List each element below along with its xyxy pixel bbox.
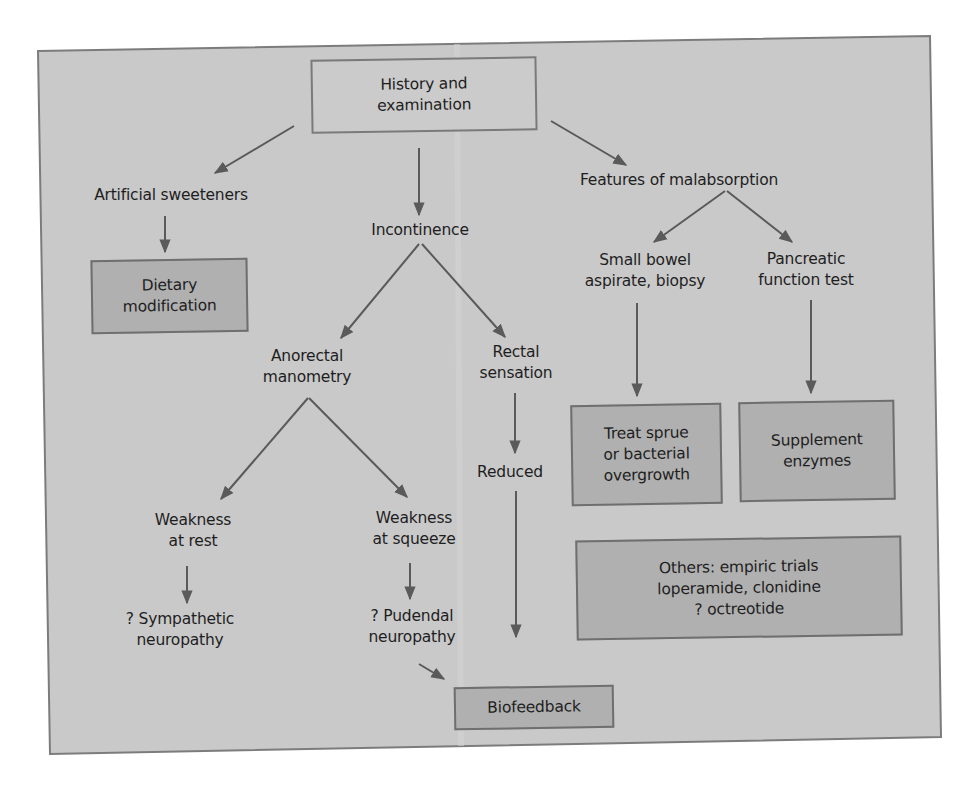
weakness-rest-label: Weakness at rest xyxy=(155,510,231,552)
history-label: History and examination xyxy=(377,73,472,116)
supplement-enzymes-box: Supplement enzymes xyxy=(738,400,896,502)
dietary-modification-label: Dietary modification xyxy=(122,274,216,317)
biofeedback-label: Biofeedback xyxy=(487,696,581,718)
dietary-modification-box: Dietary modification xyxy=(90,258,248,334)
anorectal-manometry-label: Anorectal manometry xyxy=(263,346,351,388)
incontinence-label: Incontinence xyxy=(371,220,468,241)
others-box: Others: empiric trials loperamide, cloni… xyxy=(575,535,903,640)
treat-sprue-label: Treat sprue or bacterial overgrowth xyxy=(603,422,690,486)
features-malabsorption-label: Features of malabsorption xyxy=(580,170,778,191)
history-box: History and examination xyxy=(310,56,537,134)
weakness-squeeze-label: Weakness at squeeze xyxy=(373,508,456,550)
supplement-enzymes-label: Supplement enzymes xyxy=(771,429,863,472)
biofeedback-box: Biofeedback xyxy=(454,685,615,731)
treat-sprue-box: Treat sprue or bacterial overgrowth xyxy=(570,403,723,506)
pancreatic-function-label: Pancreatic function test xyxy=(758,249,853,291)
sympathetic-neuropathy-label: ? Sympathetic neuropathy xyxy=(126,609,234,651)
others-label: Others: empiric trials loperamide, cloni… xyxy=(657,555,821,621)
pudendal-neuropathy-label: ? Pudendal neuropathy xyxy=(368,606,455,648)
reduced-label: Reduced xyxy=(477,462,543,483)
flowchart-canvas: History and examination Dietary modifica… xyxy=(0,0,972,787)
small-bowel-label: Small bowel aspirate, biopsy xyxy=(585,250,706,292)
artificial-sweeteners-label: Artificial sweeteners xyxy=(94,185,248,206)
rectal-sensation-label: Rectal sensation xyxy=(480,342,553,384)
